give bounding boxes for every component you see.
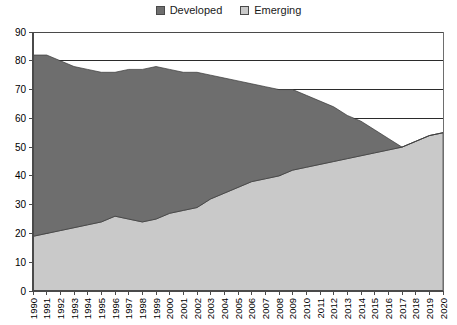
y-tick-label-50: 50	[15, 142, 27, 153]
area-series	[33, 55, 443, 291]
y-tick-label-40: 40	[15, 170, 27, 181]
x-tick-label-1992: 1992	[55, 298, 66, 319]
y-tick-label-90: 90	[15, 27, 27, 38]
x-tick-label-2011: 2011	[315, 298, 326, 318]
x-tick-label-1993: 1993	[69, 298, 80, 319]
chart-container: Developed Emerging 0102030405060708090 1…	[0, 0, 457, 325]
x-tick-label-1998: 1998	[137, 298, 148, 319]
y-tick-label-80: 80	[15, 55, 27, 66]
y-tick-label-30: 30	[15, 199, 27, 210]
x-tick-label-2019: 2019	[424, 298, 435, 319]
x-tick-label-1994: 1994	[82, 298, 93, 319]
x-tick-label-2003: 2003	[205, 298, 216, 319]
x-tick-label-2017: 2017	[397, 298, 408, 319]
x-axis-labels: 1990199119921993199419951996199719981999…	[28, 298, 449, 319]
x-tick-label-2014: 2014	[356, 298, 367, 319]
x-tick-label-1996: 1996	[110, 298, 121, 319]
y-tick-label-10: 10	[15, 257, 27, 268]
x-tick-label-2008: 2008	[274, 298, 285, 319]
y-tick-label-70: 70	[15, 84, 27, 95]
x-tick-label-2004: 2004	[219, 298, 230, 319]
x-tick-label-1995: 1995	[96, 298, 107, 319]
x-tick-label-2015: 2015	[369, 298, 380, 319]
x-tick-label-2000: 2000	[164, 298, 175, 319]
x-tick-label-2018: 2018	[410, 298, 421, 319]
x-tick-label-2009: 2009	[287, 298, 298, 319]
y-axis-labels: 0102030405060708090	[15, 27, 27, 297]
x-tick-label-1997: 1997	[123, 298, 134, 319]
x-tick-label-2006: 2006	[246, 298, 257, 319]
x-tick-label-2010: 2010	[301, 298, 312, 319]
x-tick-label-1999: 1999	[151, 298, 162, 319]
chart-svg: 0102030405060708090 19901991199219931994…	[0, 0, 457, 325]
y-tick-label-60: 60	[15, 113, 27, 124]
y-tick-label-0: 0	[20, 286, 26, 297]
x-tick-label-2005: 2005	[233, 298, 244, 319]
x-tick-label-2016: 2016	[383, 298, 394, 319]
plot-area: 0102030405060708090 19901991199219931994…	[0, 0, 457, 325]
x-tick-label-2013: 2013	[342, 298, 353, 319]
y-tick-label-20: 20	[15, 228, 27, 239]
x-tick-label-2001: 2001	[178, 298, 189, 319]
x-tick-label-1990: 1990	[28, 298, 39, 319]
x-tick-label-1991: 1991	[41, 298, 52, 319]
x-tick-label-2002: 2002	[192, 298, 203, 319]
x-tick-label-2012: 2012	[328, 298, 339, 319]
x-tick-label-2007: 2007	[260, 298, 271, 319]
x-tick-label-2020: 2020	[438, 298, 449, 319]
